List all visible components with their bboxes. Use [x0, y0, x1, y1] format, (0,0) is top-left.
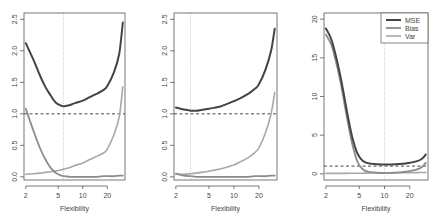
series-bias-line [326, 35, 426, 173]
x-tick-label: 2 [24, 192, 28, 199]
x-tick-label: 10 [381, 192, 389, 199]
x-tick-label: 5 [357, 192, 361, 199]
x-axis-label: Flexibility [211, 205, 240, 213]
y-tick-label: 0.5 [161, 140, 168, 150]
x-axis-label: Flexibility [362, 205, 391, 213]
plot-frame [174, 13, 277, 180]
chart-panel-2: 0.00.51.01.52.02.5251020Flexibility [161, 13, 277, 213]
y-tick-label: 15 [311, 54, 318, 62]
x-tick-label: 5 [207, 192, 211, 199]
y-tick-label: 2.5 [161, 14, 168, 24]
x-tick-label: 10 [230, 192, 238, 199]
bias-variance-figure: 0.00.51.01.52.02.5251020Flexibility0.00.… [0, 0, 437, 221]
y-tick-label: 0.0 [161, 172, 168, 182]
x-tick-label: 20 [255, 192, 263, 199]
x-axis-label: Flexibility [60, 205, 89, 213]
series-mse-line [26, 23, 123, 107]
chart-panel-3: 05101520251020FlexibilityMSEBiasVar [311, 13, 428, 213]
y-tick-label: 1.5 [161, 77, 168, 87]
y-tick-label: 10 [311, 93, 318, 101]
y-tick-label: 0 [311, 172, 318, 176]
legend-label-bias: Bias [405, 25, 419, 32]
y-tick-label: 5 [311, 133, 318, 137]
series-bias-line [26, 109, 123, 177]
y-tick-label: 2.0 [161, 46, 168, 56]
x-tick-label: 5 [56, 192, 60, 199]
x-tick-label: 20 [406, 192, 414, 199]
y-tick-label: 1.5 [11, 77, 18, 87]
legend-label-var: Var [405, 33, 416, 40]
x-tick-label: 20 [103, 192, 111, 199]
x-tick-label: 2 [174, 192, 178, 199]
y-tick-label: 2.5 [11, 14, 18, 24]
y-tick-label: 0.0 [11, 172, 18, 182]
legend: MSEBiasVar [381, 13, 428, 43]
y-tick-label: 0.5 [11, 140, 18, 150]
x-tick-label: 2 [324, 192, 328, 199]
series-var-line [26, 87, 123, 175]
plot-frame [24, 13, 125, 180]
chart-panel-1: 0.00.51.01.52.02.5251020Flexibility [11, 13, 125, 213]
y-tick-label: 1.0 [11, 109, 18, 119]
y-tick-label: 2.0 [11, 46, 18, 56]
y-tick-label: 20 [311, 15, 318, 23]
series-mse-line [326, 29, 426, 165]
y-tick-label: 1.0 [161, 109, 168, 119]
x-tick-label: 10 [79, 192, 87, 199]
legend-label-mse: MSE [405, 17, 421, 24]
